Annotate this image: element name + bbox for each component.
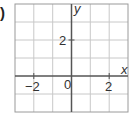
x-tick-label-neg2: −2 [25,80,40,93]
y-axis-label: y [74,2,81,15]
x-tick-label-2: 2 [105,80,112,93]
origin-label: 0 [64,78,71,91]
y-tick-label-2: 2 [59,34,66,47]
x-axis-label: x [121,63,128,76]
coordinate-grid [0,0,132,121]
